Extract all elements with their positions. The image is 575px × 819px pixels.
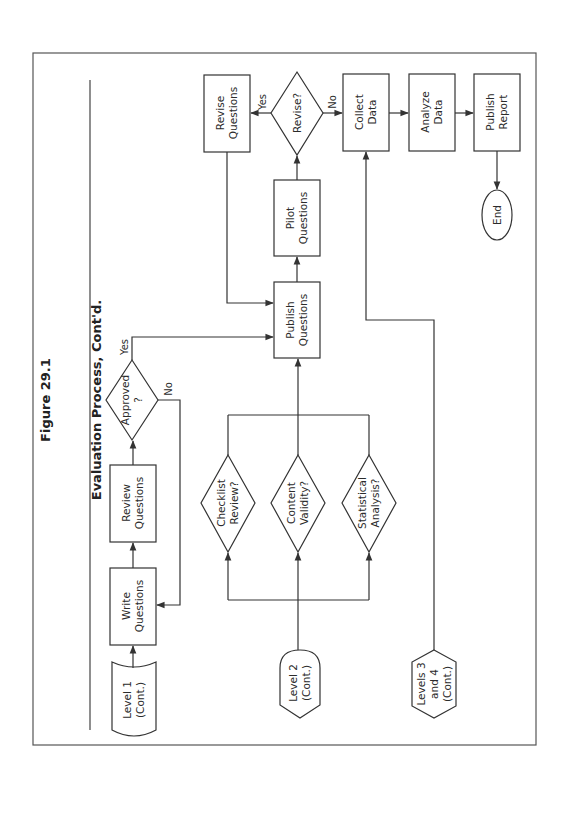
content-validity-label: Content Validity? xyxy=(285,481,311,525)
levels34-label: Levels 3 and 4 (Cont.) xyxy=(415,662,454,705)
figure-title: Figure 29.1 Evaluation Process, Cont'd. xyxy=(3,300,122,501)
publish-questions-label: Publish Questions xyxy=(284,294,310,346)
statistical-analysis-label: Statistical Analysis? xyxy=(356,477,382,529)
approved-yes-label: Yes xyxy=(118,339,131,355)
write-questions-label: Write Questions xyxy=(120,580,146,632)
end-label: End xyxy=(491,205,504,225)
figure-caption: Evaluation Process, Cont'd. xyxy=(88,300,105,501)
edge-approved-no-write xyxy=(157,400,180,605)
approved-no-label: No xyxy=(162,382,175,396)
level2-label: Level 2 (Cont.) xyxy=(287,664,313,702)
revise-questions-label: Revise Questions xyxy=(214,87,240,139)
revise-label: Revise? xyxy=(291,93,304,133)
edge-revise-questions-publish xyxy=(227,152,273,303)
review-questions-label: Review Questions xyxy=(120,477,146,529)
edge-levels34-collect xyxy=(366,152,434,650)
revise-no-label: No xyxy=(326,95,339,109)
level1-label: Level 1 (Cont.) xyxy=(121,681,147,719)
revise-yes-label: Yes xyxy=(256,94,269,110)
edge-approved-yes-publish xyxy=(132,337,273,360)
approved-label: Approved ? xyxy=(119,375,145,425)
figure-number: Figure 29.1 xyxy=(37,300,54,501)
checklist-review-label: Checklist Review? xyxy=(215,479,241,527)
analyze-data-label: Analyze Data xyxy=(419,91,445,132)
publish-report-label: Publish Report xyxy=(484,93,510,130)
pilot-questions-label: Pilot Questions xyxy=(284,192,310,244)
collect-data-label: Collect Data xyxy=(353,94,379,130)
